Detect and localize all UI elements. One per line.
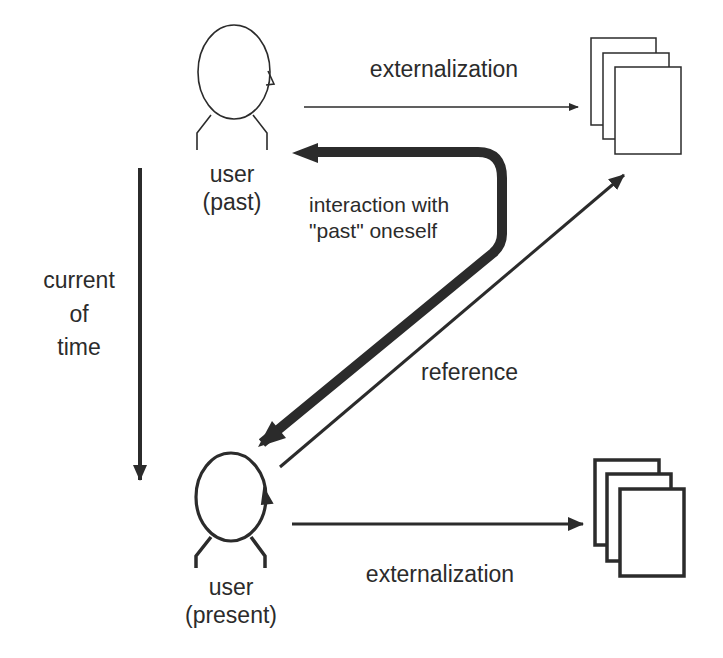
time-label-line2: of (69, 301, 89, 327)
user-past-label: user (210, 161, 255, 187)
user-present-label: user (209, 574, 254, 600)
time-label-line3: time (57, 334, 100, 360)
document-stack-present-icon (595, 460, 684, 576)
diagram-canvas: user (past) user (present) externalizati… (0, 0, 723, 658)
interaction-label-line2: "past" oneself (309, 219, 437, 242)
user-past-sublabel: (past) (203, 189, 262, 215)
document-stack-past-icon (591, 38, 681, 154)
interaction-arrowhead-past (292, 143, 318, 163)
externalization-top-label: externalization (370, 56, 518, 82)
user-present-sublabel: (present) (185, 602, 277, 628)
reference-label: reference (421, 359, 518, 385)
interaction-label-line1: interaction with (309, 193, 449, 216)
externalization-bottom-label: externalization (366, 561, 514, 587)
time-label-line1: current (43, 267, 115, 293)
user-present-figure (196, 453, 272, 568)
user-past-figure (197, 25, 274, 150)
